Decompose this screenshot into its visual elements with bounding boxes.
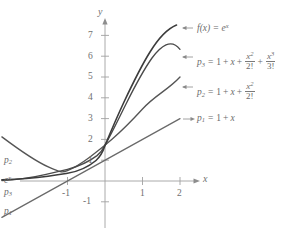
x-tick-label-2: 2 (177, 189, 182, 199)
p2-equals: = (205, 87, 216, 97)
x-tick-label-1: 1 (140, 189, 145, 199)
y-tick-label-1: 1 (88, 156, 93, 166)
y-tick-label-4: 4 (88, 93, 93, 103)
y-tick-label-3: 3 (88, 114, 93, 124)
x-axis-arrow (194, 178, 201, 183)
f-of-x-label: f(x)=ex (197, 23, 229, 34)
left-label-p2-subscript: 2 (9, 158, 12, 165)
p2-label: p2=1+x+x22! (197, 81, 256, 102)
taylor-polynomial-figure: y x 7 6 5 4 3 2 1 -1 -1 1 2 f(x)=ex p3=1… (0, 0, 303, 233)
p3-term-x3-over-3fact: x33! (266, 51, 276, 72)
leader-fx-arrow (182, 26, 187, 30)
y-tick-label-2: 2 (88, 135, 93, 145)
y-axis-arrow (102, 18, 107, 25)
x-axis-label: x (203, 174, 207, 184)
p1-label: p1=1+x (197, 114, 235, 124)
y-tick-label-neg1: -1 (83, 197, 91, 207)
left-label-p1-subscript: 1 (9, 209, 12, 216)
f-of-x-rhs-exponent: x (226, 22, 229, 29)
left-label-p1: p1 (4, 207, 12, 217)
y-tick-label-6: 6 (88, 52, 93, 62)
p1-term-x: x (230, 113, 234, 123)
f-of-x-lhs: f(x) (197, 23, 210, 33)
plot-canvas (0, 0, 303, 233)
p2-term-x2-over-2fact: x22! (245, 81, 255, 102)
left-label-p2: p2 (4, 156, 12, 166)
leader-p3-arrow (182, 55, 187, 59)
p3-term-x2-over-2fact: x22! (245, 51, 255, 72)
f-of-x-equals: = (210, 23, 221, 33)
x-tick-label-neg1: -1 (62, 189, 70, 199)
leader-lines-right (182, 26, 195, 121)
left-label-ex-exponent: x (8, 174, 11, 181)
p3-equals: = (205, 57, 216, 67)
left-label-ex: ex (4, 175, 11, 186)
y-tick-label-7: 7 (88, 31, 93, 41)
y-tick-label-5: 5 (88, 72, 93, 82)
p1-equals: = (205, 113, 216, 123)
tick-marks (68, 35, 181, 201)
leader-p1-arrow (191, 117, 196, 121)
y-axis-label: y (98, 7, 102, 17)
p3-label: p3=1+x+x22!+x33! (197, 51, 276, 72)
left-label-p3-subscript: 3 (9, 190, 12, 197)
left-label-p3: p3 (4, 188, 12, 198)
leader-p2-arrow (182, 85, 187, 89)
